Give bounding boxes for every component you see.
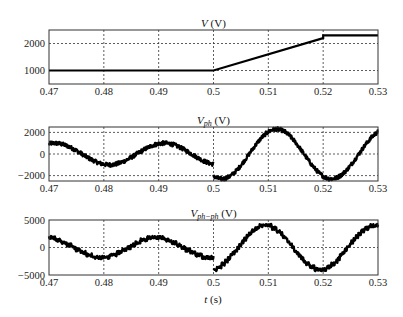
x-tick-label: 0.53 — [369, 183, 387, 194]
x-tick-label: 0.5 — [207, 86, 220, 97]
x-tick-label: 0.51 — [259, 183, 277, 194]
x-tick-label: 0.52 — [314, 277, 332, 288]
x-tick-label: 0.52 — [314, 183, 332, 194]
x-tick-label: 0.52 — [314, 86, 332, 97]
y-tick-label: 5000 — [24, 215, 45, 226]
x-tick-label: 0.47 — [40, 183, 58, 194]
panel-v: 0.470.480.490.50.510.520.5310002000V (V) — [24, 17, 387, 97]
y-tick-label: 0 — [40, 149, 45, 160]
y-tick-label: −5000 — [18, 270, 45, 281]
panel-vph: 0.470.480.490.50.510.520.53−200002000Vph… — [18, 114, 387, 194]
x-tick-label: 0.48 — [95, 277, 113, 288]
y-tick-label: 2000 — [24, 127, 45, 138]
panel-title: Vph (V) — [197, 114, 230, 128]
x-tick-label: 0.5 — [207, 183, 220, 194]
x-tick-label: 0.49 — [149, 183, 167, 194]
figure: 0.470.480.490.50.510.520.5310002000V (V)… — [0, 0, 403, 317]
x-tick-label: 0.49 — [149, 277, 167, 288]
y-tick-label: 0 — [40, 242, 45, 253]
x-tick-label: 0.51 — [259, 277, 277, 288]
x-tick-label: 0.53 — [369, 86, 387, 97]
y-tick-label: 2000 — [24, 38, 45, 49]
x-tick-label: 0.47 — [40, 86, 58, 97]
series-line — [49, 236, 214, 259]
x-axis-label: t (s) — [204, 293, 222, 306]
series-line — [49, 35, 378, 70]
x-tick-label: 0.48 — [95, 86, 113, 97]
panel-vph-ph: 0.470.480.490.50.510.520.53−500005000Vph… — [18, 207, 387, 288]
panel-title: Vph−ph (V) — [190, 207, 236, 221]
x-tick-label: 0.53 — [369, 277, 387, 288]
y-tick-label: 1000 — [24, 65, 45, 76]
x-tick-label: 0.49 — [149, 86, 167, 97]
x-tick-label: 0.48 — [95, 183, 113, 194]
x-tick-label: 0.5 — [207, 277, 220, 288]
x-tick-label: 0.51 — [259, 86, 277, 97]
panel-title: V (V) — [201, 17, 226, 30]
y-tick-label: −2000 — [18, 170, 45, 181]
